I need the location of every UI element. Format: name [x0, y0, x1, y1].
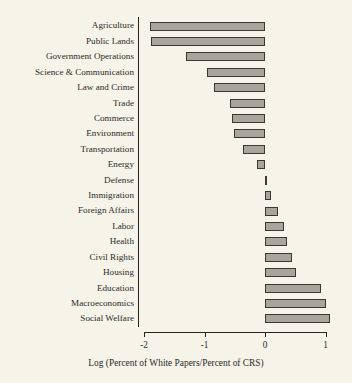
bar	[230, 99, 265, 108]
bar	[265, 299, 326, 308]
bar	[214, 83, 265, 92]
bar	[265, 191, 271, 200]
axis-tick-mark	[326, 332, 327, 337]
bar	[265, 253, 292, 262]
bar	[257, 160, 265, 169]
chart-figure: AgriculturePublic LandsGovernment Operat…	[0, 0, 352, 383]
bar	[265, 268, 296, 277]
value-axis-line	[144, 332, 327, 333]
bar	[232, 114, 265, 123]
bar	[207, 68, 265, 77]
axis-tick-label: 0	[245, 341, 285, 350]
bar	[265, 237, 287, 246]
bar	[151, 37, 265, 46]
axis-tick-label: -2	[124, 341, 164, 350]
axis-tick-mark	[205, 332, 206, 337]
bar	[150, 22, 265, 31]
bar	[265, 207, 278, 216]
bar	[265, 284, 321, 293]
bar	[265, 314, 330, 323]
bar	[234, 129, 265, 138]
bar-series	[0, 0, 352, 383]
axis-tick-mark	[144, 332, 145, 337]
bar	[186, 52, 265, 61]
axis-tick-mark	[265, 332, 266, 337]
x-axis-title: Log (Percent of White Papers/Percent of …	[0, 358, 352, 368]
axis-tick-label: -1	[185, 341, 225, 350]
bar	[265, 222, 284, 231]
bar	[265, 176, 267, 185]
axis-tick-label: 1	[306, 341, 346, 350]
bar	[243, 145, 265, 154]
